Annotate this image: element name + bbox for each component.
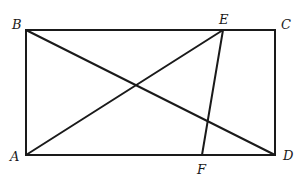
point-label-d: D	[283, 149, 293, 162]
point-label-c: C	[281, 18, 291, 31]
geometry-diagram	[0, 0, 305, 181]
point-label-e: E	[219, 13, 229, 26]
segment-ae	[26, 30, 223, 155]
segment-bd	[26, 30, 275, 155]
point-label-f: F	[197, 163, 206, 176]
segment-ef	[202, 30, 223, 155]
point-label-b: B	[12, 18, 22, 31]
point-label-a: A	[10, 150, 19, 163]
